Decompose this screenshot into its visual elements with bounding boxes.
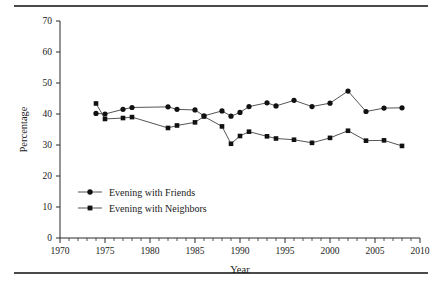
y-axis-group: 010203040506070 Percentage xyxy=(18,16,60,243)
data-point xyxy=(309,104,314,109)
data-point xyxy=(130,115,135,120)
legend-item-2: Evening with Neighbors xyxy=(78,203,207,214)
data-point xyxy=(165,104,170,109)
x-tick-label: 2005 xyxy=(366,246,385,256)
legend-label: Evening with Friends xyxy=(109,187,195,198)
x-axis-tick-labels: 197019751980198519901995200020052010 xyxy=(51,246,430,256)
y-tick-label: 60 xyxy=(43,47,53,57)
data-point xyxy=(345,88,350,93)
data-point xyxy=(202,114,207,119)
y-tick-label: 0 xyxy=(47,233,52,243)
data-point xyxy=(175,123,180,128)
data-point xyxy=(247,129,252,134)
data-point xyxy=(103,117,108,122)
x-axis-group: 197019751980198519901995200020052010 Yea… xyxy=(51,238,430,275)
y-tick-label: 20 xyxy=(43,171,53,181)
data-series-layer xyxy=(93,88,404,148)
y-tick-label: 50 xyxy=(43,78,53,88)
legend-label: Evening with Neighbors xyxy=(109,203,207,214)
legend-item-1: Evening with Friends xyxy=(78,187,195,198)
data-point xyxy=(193,120,198,125)
data-point xyxy=(399,105,404,110)
y-tick-label: 40 xyxy=(43,109,53,119)
y-tick-label: 70 xyxy=(43,16,53,26)
data-point xyxy=(273,103,278,108)
data-point xyxy=(274,136,279,141)
line-chart-plot: 010203040506070 Percentage 1970197519801… xyxy=(0,0,442,283)
data-point xyxy=(228,114,233,119)
data-point xyxy=(291,98,296,103)
data-point xyxy=(94,101,99,106)
data-point xyxy=(129,105,134,110)
data-point xyxy=(93,111,98,116)
chart-legend: Evening with FriendsEvening with Neighbo… xyxy=(78,187,207,214)
x-tick-label: 1975 xyxy=(96,246,115,256)
x-tick-label: 2000 xyxy=(321,246,340,256)
y-tick-label: 30 xyxy=(43,140,53,150)
x-axis-title: Year xyxy=(230,264,250,275)
y-axis-title: Percentage xyxy=(18,106,29,152)
series-line-2 xyxy=(96,103,402,145)
data-point xyxy=(364,138,369,143)
data-point xyxy=(382,138,387,143)
data-point xyxy=(229,141,234,146)
data-point xyxy=(264,100,269,105)
data-point xyxy=(310,141,315,146)
data-point xyxy=(246,104,251,109)
data-point xyxy=(238,134,243,139)
data-point xyxy=(219,108,224,113)
data-point xyxy=(328,136,333,141)
legend-marker xyxy=(87,189,92,194)
chart-figure: 010203040506070 Percentage 1970197519801… xyxy=(0,0,442,283)
data-point xyxy=(166,126,171,131)
data-point xyxy=(220,124,225,129)
data-point xyxy=(174,107,179,112)
y-axis-tick-labels: 010203040506070 xyxy=(43,16,53,243)
x-tick-label: 1970 xyxy=(51,246,70,256)
data-point xyxy=(121,116,126,121)
series-1 xyxy=(93,88,404,118)
x-tick-label: 1990 xyxy=(231,246,250,256)
data-point xyxy=(346,128,351,133)
data-point xyxy=(400,144,405,149)
data-point xyxy=(363,109,368,114)
data-point xyxy=(192,107,197,112)
data-point xyxy=(327,101,332,106)
y-axis-ticks xyxy=(56,21,60,238)
data-point xyxy=(237,110,242,115)
x-tick-label: 1985 xyxy=(186,246,205,256)
data-point xyxy=(265,134,270,139)
data-point xyxy=(381,106,386,111)
x-tick-label: 1980 xyxy=(141,246,160,256)
data-point xyxy=(292,137,297,142)
series-line-1 xyxy=(96,91,402,116)
legend-marker xyxy=(88,206,93,211)
x-tick-label: 1995 xyxy=(276,246,295,256)
y-tick-label: 10 xyxy=(43,202,53,212)
x-tick-label: 2010 xyxy=(411,246,430,256)
data-point xyxy=(120,107,125,112)
